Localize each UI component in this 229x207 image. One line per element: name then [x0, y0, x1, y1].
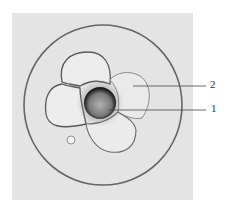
label-1: 1 — [211, 103, 217, 114]
center-body — [84, 87, 116, 119]
micrograph-figure — [0, 0, 229, 207]
vesicle — [67, 136, 75, 144]
label-2: 2 — [210, 79, 216, 90]
